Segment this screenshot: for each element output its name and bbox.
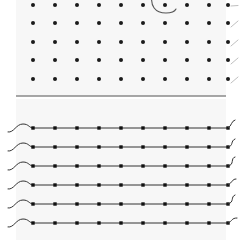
trace-marker xyxy=(207,126,210,129)
trace-marker xyxy=(53,126,56,129)
scatter-dot xyxy=(141,77,145,81)
trace-marker xyxy=(141,145,144,148)
trace-marker xyxy=(119,145,122,148)
scatter-dot xyxy=(119,77,123,81)
scatter-dot xyxy=(97,77,101,81)
trace-marker xyxy=(207,145,210,148)
scatter-dot xyxy=(207,40,211,44)
top-panel-background xyxy=(16,0,226,96)
trace-marker xyxy=(119,164,122,167)
scatter-dot xyxy=(163,77,167,81)
scatter-dot xyxy=(53,58,57,62)
trace-marker xyxy=(163,126,166,129)
scatter-dot xyxy=(53,77,57,81)
trace-marker xyxy=(31,164,34,167)
trace-marker xyxy=(207,183,210,186)
trace-marker xyxy=(75,145,78,148)
trace-marker xyxy=(185,145,188,148)
trace-marker xyxy=(75,202,78,205)
scatter-dot xyxy=(75,21,79,25)
trace-marker xyxy=(163,145,166,148)
scatter-dot xyxy=(97,58,101,62)
trace-marker xyxy=(119,183,122,186)
scatter-dot xyxy=(75,3,79,7)
trace-marker xyxy=(207,221,210,224)
trace-marker xyxy=(75,183,78,186)
scatter-dot xyxy=(141,58,145,62)
trace-marker xyxy=(97,164,100,167)
scatter-dot xyxy=(97,21,101,25)
trace-marker xyxy=(163,164,166,167)
trace-marker xyxy=(141,183,144,186)
trace-marker xyxy=(31,202,34,205)
figure-canvas xyxy=(0,0,239,240)
scatter-dot xyxy=(185,3,189,7)
trace-marker xyxy=(97,126,100,129)
trace-marker xyxy=(31,126,34,129)
trace-marker xyxy=(75,221,78,224)
trace-marker xyxy=(141,126,144,129)
scatter-dot xyxy=(207,58,211,62)
plot-svg xyxy=(0,0,239,240)
trace-marker xyxy=(185,164,188,167)
scatter-dot xyxy=(163,21,167,25)
scatter-dot xyxy=(185,77,189,81)
scatter-dot xyxy=(31,3,35,7)
scatter-dot xyxy=(53,3,57,7)
scatter-dot xyxy=(226,3,230,7)
trace-marker xyxy=(75,126,78,129)
scatter-dot xyxy=(31,58,35,62)
trace-marker xyxy=(185,183,188,186)
trace-marker xyxy=(163,183,166,186)
scatter-dot xyxy=(207,77,211,81)
scatter-dot xyxy=(141,21,145,25)
scatter-dot xyxy=(226,77,230,81)
trace-marker xyxy=(53,202,56,205)
scatter-dot xyxy=(53,21,57,25)
trace-marker xyxy=(53,221,56,224)
scatter-dot xyxy=(207,3,211,7)
scatter-dot xyxy=(185,21,189,25)
trace-marker xyxy=(207,164,210,167)
scatter-dot xyxy=(207,21,211,25)
trace-marker xyxy=(207,202,210,205)
trace-marker xyxy=(97,145,100,148)
trace-marker xyxy=(185,221,188,224)
edge-tick xyxy=(231,6,238,7)
scatter-dot xyxy=(97,40,101,44)
scatter-dot xyxy=(163,58,167,62)
scatter-dot xyxy=(53,40,57,44)
scatter-dot xyxy=(97,3,101,7)
bottom-panel-background xyxy=(16,99,226,240)
scatter-dot xyxy=(75,77,79,81)
trace-marker xyxy=(141,221,144,224)
trace-marker xyxy=(97,202,100,205)
trace-marker xyxy=(97,183,100,186)
scatter-dot xyxy=(141,3,145,7)
trace-marker xyxy=(53,183,56,186)
trace-marker xyxy=(31,183,34,186)
scatter-dot xyxy=(31,77,35,81)
scatter-dot xyxy=(119,3,123,7)
trace-marker xyxy=(185,202,188,205)
scatter-dot xyxy=(31,21,35,25)
trace-marker xyxy=(53,164,56,167)
scatter-dot xyxy=(163,3,167,7)
trace-marker xyxy=(119,221,122,224)
scatter-dot xyxy=(163,40,167,44)
trace-marker xyxy=(163,221,166,224)
trace-marker xyxy=(75,164,78,167)
trace-marker xyxy=(97,221,100,224)
scatter-dot xyxy=(119,40,123,44)
trace-marker xyxy=(31,145,34,148)
trace-marker xyxy=(163,202,166,205)
scatter-dot xyxy=(185,58,189,62)
scatter-dot xyxy=(141,40,145,44)
scatter-dot xyxy=(75,40,79,44)
scatter-dot xyxy=(119,21,123,25)
scatter-dot xyxy=(75,58,79,62)
trace-marker xyxy=(119,126,122,129)
trace-marker xyxy=(53,145,56,148)
scatter-dot xyxy=(226,58,230,62)
trace-marker xyxy=(31,221,34,224)
